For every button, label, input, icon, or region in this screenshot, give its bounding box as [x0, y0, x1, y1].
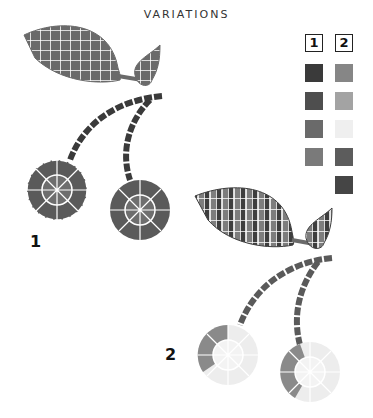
variation-label-1: 1 [30, 232, 41, 251]
mosaic-illustrations [0, 0, 373, 418]
cherry-mosaic-variation-1 [24, 26, 170, 240]
variation-label-2: 2 [165, 345, 176, 364]
cherry-mosaic-variation-2 [195, 188, 340, 402]
